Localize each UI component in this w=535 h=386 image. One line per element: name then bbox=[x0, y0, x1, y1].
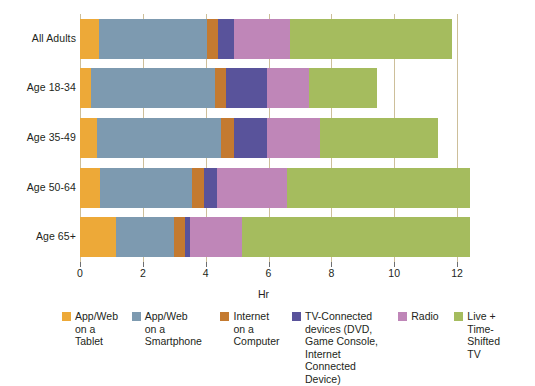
legend-label: Live + Time- Shifted TV bbox=[467, 310, 514, 360]
bar-segment[interactable] bbox=[116, 217, 174, 257]
bar-segment[interactable] bbox=[234, 19, 291, 59]
stacked-bar[interactable] bbox=[80, 68, 377, 108]
x-tick-label: 6 bbox=[266, 267, 272, 279]
legend-label: App/Web on a Tablet bbox=[75, 310, 118, 348]
bar-row bbox=[80, 217, 457, 257]
legend-label: Radio bbox=[411, 310, 438, 323]
bar-segment[interactable] bbox=[221, 118, 234, 158]
legend-swatch-icon bbox=[292, 312, 301, 321]
bar-segment[interactable] bbox=[218, 19, 234, 59]
legend-label: Internet on a Computer bbox=[233, 310, 279, 348]
bar-segment[interactable] bbox=[80, 68, 91, 108]
legend-label: App/Web on a Smartphone bbox=[145, 310, 202, 348]
bar-segment[interactable] bbox=[97, 118, 221, 158]
legend-item[interactable]: App/Web on a Tablet bbox=[62, 310, 122, 348]
bar-row bbox=[80, 118, 457, 158]
bar-segment[interactable] bbox=[80, 217, 116, 257]
legend-swatch-icon bbox=[454, 312, 463, 321]
category-label: All Adults bbox=[2, 32, 76, 44]
x-tick-label: 12 bbox=[451, 267, 463, 279]
legend-swatch-icon bbox=[62, 312, 71, 321]
stacked-bar[interactable] bbox=[80, 118, 438, 158]
legend-item[interactable]: Radio bbox=[398, 310, 444, 323]
plot-area: All AdultsAge 18-34Age 35-49Age 50-64Age… bbox=[0, 0, 535, 268]
bar-segment[interactable] bbox=[80, 19, 99, 59]
legend-label: TV-Connected devices (DVD, Game Console,… bbox=[305, 310, 388, 386]
bar-segment[interactable] bbox=[80, 118, 97, 158]
category-label: Age 18-34 bbox=[2, 81, 76, 93]
stacked-bar[interactable] bbox=[80, 217, 470, 257]
bar-segment[interactable] bbox=[100, 168, 191, 208]
bar-segment[interactable] bbox=[91, 68, 215, 108]
bar-segment[interactable] bbox=[99, 19, 207, 59]
x-axis-title-label: Hr bbox=[258, 288, 269, 300]
legend: App/Web on a TabletApp/Web on a Smartpho… bbox=[62, 310, 524, 386]
bar-segment[interactable] bbox=[267, 118, 320, 158]
bar-row bbox=[80, 19, 457, 59]
category-label: Age 65+ bbox=[2, 230, 76, 242]
legend-swatch-icon bbox=[398, 312, 407, 321]
bar-segment[interactable] bbox=[226, 68, 267, 108]
bar-segment[interactable] bbox=[242, 217, 470, 257]
bar-segment[interactable] bbox=[174, 217, 185, 257]
legend-item[interactable]: TV-Connected devices (DVD, Game Console,… bbox=[292, 310, 388, 386]
bar-segment[interactable] bbox=[204, 168, 217, 208]
x-tick-label: 10 bbox=[388, 267, 400, 279]
x-tick-label: 0 bbox=[77, 267, 83, 279]
x-tick-label: 8 bbox=[328, 267, 334, 279]
legend-item[interactable]: Live + Time- Shifted TV bbox=[454, 310, 514, 360]
bar-segment[interactable] bbox=[290, 19, 452, 59]
bar-segment[interactable] bbox=[217, 168, 288, 208]
legend-swatch-icon bbox=[132, 312, 141, 321]
legend-swatch-icon bbox=[220, 312, 229, 321]
bar-segment[interactable] bbox=[234, 118, 267, 158]
bar-segment[interactable] bbox=[192, 168, 205, 208]
bars-and-gridlines bbox=[80, 14, 457, 262]
stacked-bar[interactable] bbox=[80, 19, 452, 59]
category-axis-labels: All AdultsAge 18-34Age 35-49Age 50-64Age… bbox=[0, 14, 76, 262]
bar-row bbox=[80, 168, 457, 208]
x-tick-label: 2 bbox=[140, 267, 146, 279]
bar-segment[interactable] bbox=[267, 68, 309, 108]
bar-segment[interactable] bbox=[207, 19, 218, 59]
bar-segment[interactable] bbox=[320, 118, 438, 158]
bar-segment[interactable] bbox=[190, 217, 242, 257]
bar-segment[interactable] bbox=[309, 68, 377, 108]
bar-segment[interactable] bbox=[80, 168, 100, 208]
x-tick-label: 4 bbox=[203, 267, 209, 279]
category-label: Age 50-64 bbox=[2, 181, 76, 193]
category-label: Age 35-49 bbox=[2, 131, 76, 143]
legend-item[interactable]: App/Web on a Smartphone bbox=[132, 310, 211, 348]
bar-segment[interactable] bbox=[215, 68, 226, 108]
legend-item[interactable]: Internet on a Computer bbox=[220, 310, 282, 348]
x-axis-title: Hr bbox=[0, 288, 535, 300]
stacked-bar[interactable] bbox=[80, 168, 470, 208]
bar-row bbox=[80, 68, 457, 108]
bar-segment[interactable] bbox=[287, 168, 469, 208]
